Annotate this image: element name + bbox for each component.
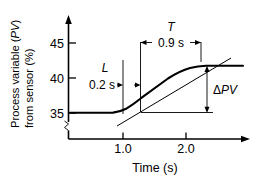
time-constant-arrow-right-head [195,40,201,45]
chart-canvas: Process variable (PV) from sensor (%) 45… [0,0,264,178]
time-constant-value: 0.9 s [158,36,184,50]
dead-time-annotation: L 0.2 s [89,61,141,92]
dead-time-symbol: L [102,61,109,75]
y-tick-label-40: 40 [50,72,64,86]
y-axis-ticks [69,43,77,113]
step-response-chart-figure: Process variable (PV) from sensor (%) 45… [0,0,264,178]
x-axis-title: Time (s) [132,161,177,175]
time-constant-annotation: T 0.9 s [141,20,202,50]
dead-time-arrow-head [118,83,124,88]
y-axis-title-line1: Process variable (PV) [9,20,21,128]
delta-pv-label: ΔPV [213,83,238,97]
x-axis-tick-labels: 1.0 2.0 [114,142,194,156]
y-tick-label-35: 35 [50,107,64,121]
y-axis-title-line2: from sensor (%) [23,48,35,128]
dead-time-value: 0.2 s [89,78,115,92]
y-axis [65,15,72,139]
dead-time-arrow2-head [135,83,141,88]
y-axis-title: Process variable (PV) from sensor (%) [9,20,35,128]
y-tick-label-45: 45 [50,37,64,51]
x-axis-arrowhead [241,136,250,142]
time-constant-symbol: T [167,20,176,34]
x-tick-label-1-0: 1.0 [114,142,131,156]
x-axis [69,136,251,142]
y-axis-tick-labels: 45 40 35 [50,37,64,121]
delta-pv-annotation: ΔPV [141,66,238,113]
x-axis-ticks [123,133,186,140]
time-constant-arrow-left-head [141,40,147,45]
x-tick-label-2-0: 2.0 [177,142,194,156]
y-axis-arrowhead [65,15,72,24]
y-axis-break-icon [65,121,69,131]
